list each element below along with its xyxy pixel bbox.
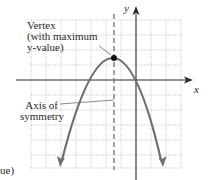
- vertex-leader-line: [99, 46, 111, 55]
- x-axis-label: x: [194, 84, 199, 95]
- vertex-label-line3: y-value): [27, 42, 98, 53]
- vertex-point: [111, 55, 117, 61]
- y-axis-arrow-icon: [133, 6, 140, 15]
- cutoff-caption-text: ue): [0, 165, 14, 176]
- x-axis: [16, 77, 193, 84]
- y-axis: [133, 6, 140, 180]
- parabola-curve: [62, 58, 161, 160]
- y-axis-label: y: [124, 3, 129, 14]
- vertex-label: Vertex (with maximum y-value): [27, 20, 98, 53]
- axis-of-symmetry-label: Axis of symmetry: [22, 100, 58, 122]
- axis-label-line2: symmetry: [20, 111, 58, 122]
